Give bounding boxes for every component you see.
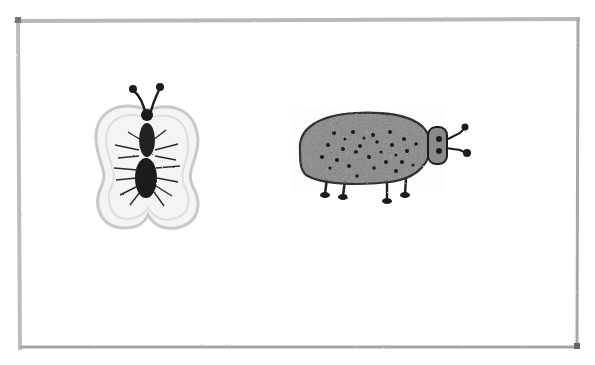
- sketch: [0, 0, 595, 365]
- beetle: [300, 113, 471, 204]
- frame: [15, 17, 580, 350]
- drawing-canvas: [0, 0, 595, 365]
- butterfly: [96, 83, 198, 228]
